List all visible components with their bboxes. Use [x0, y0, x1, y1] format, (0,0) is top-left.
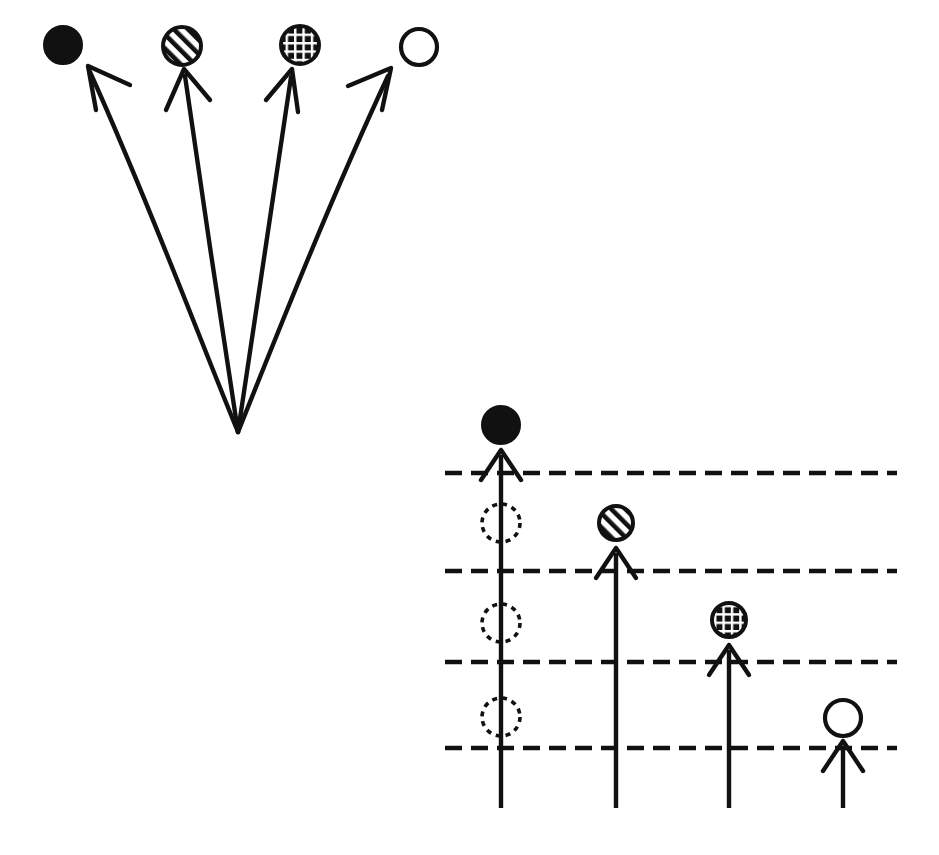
ladder-node-open-white-circle — [825, 700, 861, 736]
fan-node-solid-black-circle — [44, 26, 82, 64]
ladder-column-3 — [709, 603, 749, 808]
stepped-level-panel — [445, 406, 897, 808]
fan-arrow-to-cross-hatch-grid — [238, 69, 298, 432]
fan-arrow-to-diagonal-hatch — [166, 69, 238, 432]
figure-canvas — [0, 0, 939, 855]
ladder-column-4 — [823, 700, 863, 808]
fan-arrow-to-open-white — [238, 68, 391, 432]
fan-arrow-to-solid-black — [88, 66, 238, 432]
ladder-node-diagonal-hatch-circle — [599, 506, 633, 540]
ladder-node-cross-hatch-grid-circle — [712, 603, 746, 637]
fan-node-diagonal-hatch-circle — [163, 27, 201, 65]
diagram-svg — [0, 0, 939, 855]
fan-node-cross-hatch-grid-circle — [281, 26, 319, 64]
ladder-node-solid-black-circle — [482, 406, 520, 444]
divergent-fan-panel — [44, 26, 437, 432]
ladder-column-2 — [596, 506, 636, 808]
fan-node-open-white-circle — [401, 29, 437, 65]
